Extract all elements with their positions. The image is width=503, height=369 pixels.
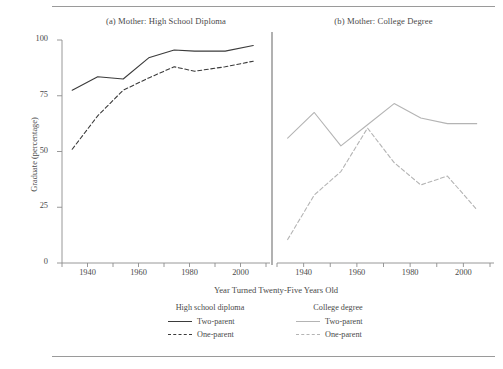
legend-heading-high-school: High school diploma	[150, 303, 270, 312]
series-line-a-two-parent	[72, 46, 253, 91]
y-tick-label: 25	[22, 201, 48, 210]
line-solid-icon	[168, 321, 192, 322]
x-axis-label: Year Turned Twenty-Five Years Old	[62, 285, 490, 295]
series-line-a-one-parent	[72, 61, 253, 149]
legend-item-hs-two-parent: Two-parent	[150, 315, 270, 328]
y-axis-tick-labels: 0255075100	[20, 0, 48, 369]
legend-item-cd-one-parent: One-parent	[278, 328, 398, 341]
x-tick-label: 1960	[122, 268, 156, 277]
legend-column-college: College degree Two-parent One-parent	[278, 303, 398, 341]
x-tick-label: 1980	[393, 268, 427, 277]
series-line-b-one-parent	[288, 128, 477, 240]
x-tick-label: 2000	[224, 268, 258, 277]
line-dashed-light-icon	[296, 334, 320, 335]
panel-b-title: (b) Mother: College Degree	[277, 16, 490, 26]
x-tick-label: 2000	[446, 268, 480, 277]
y-tick-label: 50	[22, 146, 48, 155]
y-tick-label: 75	[22, 90, 48, 99]
panel-a-title: (a) Mother: High School Diploma	[62, 16, 270, 26]
x-tick-label: 1940	[287, 268, 321, 277]
legend-item-cd-two-parent: Two-parent	[278, 315, 398, 328]
legend-column-high-school: High school diploma Two-parent One-paren…	[150, 303, 270, 341]
legend-label-cd-one-parent: One-parent	[325, 330, 362, 339]
legend-heading-college: College degree	[278, 303, 398, 312]
legend-label-cd-two-parent: Two-parent	[325, 317, 363, 326]
bottom-divider-rule	[52, 356, 495, 357]
y-tick-label: 100	[22, 34, 48, 43]
legend-label-hs-two-parent: Two-parent	[197, 317, 235, 326]
y-tick-label: 0	[22, 257, 48, 266]
x-tick-label: 1960	[340, 268, 374, 277]
legend-item-hs-one-parent: One-parent	[150, 328, 270, 341]
top-divider-rule	[52, 6, 495, 7]
x-tick-label: 1980	[173, 268, 207, 277]
series-layer	[72, 46, 476, 240]
line-solid-light-icon	[296, 321, 320, 322]
legend-label-hs-one-parent: One-parent	[197, 330, 234, 339]
series-line-b-two-parent	[288, 104, 477, 146]
x-tick-label: 1940	[71, 268, 105, 277]
axes-layer	[57, 32, 494, 267]
line-dashed-icon	[168, 334, 192, 335]
figure-canvas: (a) Mother: High School Diploma (b) Moth…	[0, 0, 503, 369]
